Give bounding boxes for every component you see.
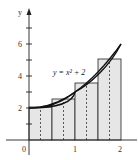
riemann-sum-figure: y 6 4 2 0 1 2 y = x² + 2 (0, 0, 138, 160)
y-tick-label-2: 2 (18, 104, 22, 113)
x-tick-label-1: 1 (73, 145, 77, 154)
y-tick-label-4: 4 (18, 72, 22, 81)
y-axis-label: y (18, 8, 22, 17)
x-tick-label-0: 0 (22, 145, 26, 154)
equation-label: y = x² + 2 (52, 68, 85, 77)
x-tick-label-2: 2 (118, 145, 122, 154)
y-axis-arrow-icon (27, 8, 32, 15)
y-tick-label-6: 6 (18, 40, 22, 49)
